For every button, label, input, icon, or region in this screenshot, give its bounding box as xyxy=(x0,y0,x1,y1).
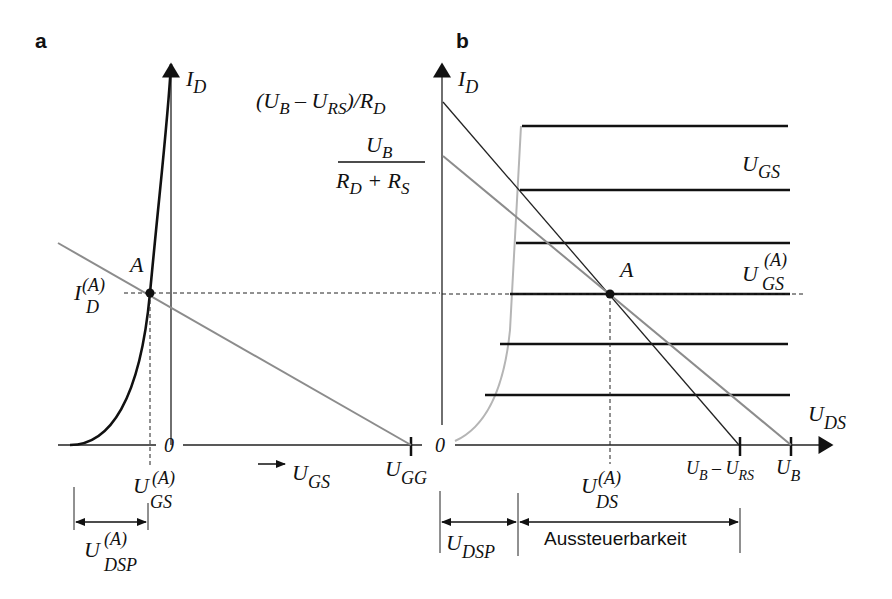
range-label: Aussteuerbarkeit xyxy=(544,528,687,549)
udsp-a-label: UDSP(A) xyxy=(84,529,137,575)
origin-label-b: 0 xyxy=(435,434,445,456)
intercept-label-2-denominator: RD + RS xyxy=(335,168,410,198)
ac-load-line xyxy=(443,156,791,445)
id-a-label: ID(A) xyxy=(73,275,105,317)
ugs-axis-label: UGS xyxy=(292,460,330,492)
point-a-label-a: A xyxy=(128,252,144,277)
intercept-label-2-numerator: UB xyxy=(366,132,393,162)
id-axis-label-b: ID xyxy=(457,66,478,97)
id-axis-label-a: ID xyxy=(185,66,206,97)
ugs-family-label: UGS xyxy=(742,151,780,182)
uds-axis-label: UDS xyxy=(808,401,846,433)
ugg-label: UGG xyxy=(385,456,427,488)
panel-b: b ID (UB – URS)/RD UB RD + RS xyxy=(256,29,846,562)
uds-a-label: UDS(A) xyxy=(581,468,621,512)
tick-label-ub-minus-urs: UB – URS xyxy=(686,458,754,483)
intercept-label-1: (UB – URS)/RD xyxy=(256,88,386,118)
ugs-a-label-b: UGS(A) xyxy=(742,250,787,294)
panel-a-label: a xyxy=(35,29,47,52)
gate-load-line xyxy=(58,243,411,445)
udsp-label: UDSP xyxy=(446,530,495,562)
panel-b-label: b xyxy=(456,29,469,52)
point-a-label-b: A xyxy=(618,257,634,282)
ugs-a-label: UGS(A) xyxy=(133,468,175,512)
operating-point-a xyxy=(146,289,155,298)
tick-label-ub: UB xyxy=(776,456,800,484)
operating-point-b xyxy=(606,290,615,299)
dc-load-line xyxy=(443,102,739,445)
origin-label-a: 0 xyxy=(164,434,174,456)
transfer-characteristic xyxy=(70,64,171,445)
fet-operating-point-diagram: a ID A ID(A) 0 UGS UGG xyxy=(0,0,892,599)
